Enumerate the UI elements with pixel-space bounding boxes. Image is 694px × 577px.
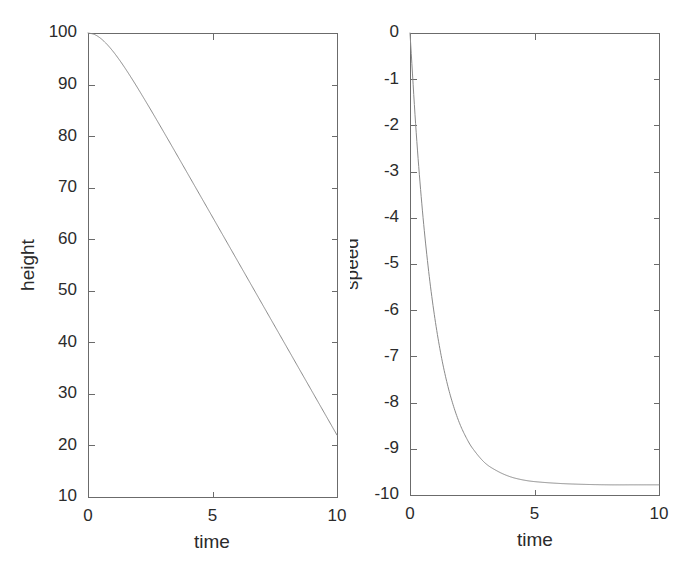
y-tick-label: -3 — [384, 161, 399, 180]
x-tick-label: 10 — [328, 506, 347, 525]
x-tick-label: 5 — [208, 506, 217, 525]
y-tick-label: -10 — [374, 484, 399, 503]
y-tick-label: 60 — [58, 229, 77, 248]
speed-plot-xlabel: time — [517, 529, 553, 550]
y-tick-label: 40 — [58, 332, 77, 351]
height-plot-ticks — [89, 34, 338, 498]
y-tick-label: 20 — [58, 435, 77, 454]
x-tick-label: 0 — [405, 504, 414, 523]
y-tick-label: -1 — [384, 69, 399, 88]
speed-plot-svg: -10-9-8-7-6-5-4-3-2-100510 time speed — [350, 0, 694, 577]
y-tick-label: 70 — [58, 177, 77, 196]
y-tick-label: -2 — [384, 115, 399, 134]
height-plot-tick-labels: 1020304050607080901000510 — [49, 22, 347, 525]
height-plot-xlabel: time — [194, 531, 230, 552]
y-tick-label: 80 — [58, 126, 77, 145]
height-plot-ylabel: height — [17, 238, 38, 290]
speed-plot-panel: -10-9-8-7-6-5-4-3-2-100510 time speed — [350, 0, 694, 577]
y-tick-label: 0 — [390, 22, 399, 41]
y-tick-label: -6 — [384, 300, 399, 319]
x-tick-label: 10 — [650, 504, 669, 523]
speed-plot-ticks — [411, 34, 660, 496]
x-tick-label: 0 — [83, 506, 92, 525]
y-tick-label: -7 — [384, 346, 399, 365]
speed-plot-tick-labels: -10-9-8-7-6-5-4-3-2-100510 — [374, 22, 668, 523]
y-tick-label: -9 — [384, 438, 399, 457]
figure-canvas: 1020304050607080901000510 time height -1… — [0, 0, 694, 577]
height-plot-panel: 1020304050607080901000510 time height — [0, 0, 350, 577]
x-tick-label: 5 — [530, 504, 539, 523]
height-plot-axes — [89, 34, 338, 498]
y-tick-label: 100 — [49, 22, 77, 41]
y-tick-label: -4 — [384, 207, 399, 226]
y-tick-label: 10 — [58, 486, 77, 505]
height-data-curve — [88, 33, 337, 435]
y-tick-label: 90 — [58, 74, 77, 93]
y-tick-label: 50 — [58, 280, 77, 299]
y-tick-label: 30 — [58, 383, 77, 402]
y-tick-label: -8 — [384, 392, 399, 411]
height-plot-svg: 1020304050607080901000510 time height — [0, 0, 350, 577]
speed-plot-axes — [411, 34, 660, 496]
speed-data-curve — [410, 33, 659, 485]
speed-plot-ylabel: speed — [350, 238, 362, 290]
y-tick-label: -5 — [384, 253, 399, 272]
